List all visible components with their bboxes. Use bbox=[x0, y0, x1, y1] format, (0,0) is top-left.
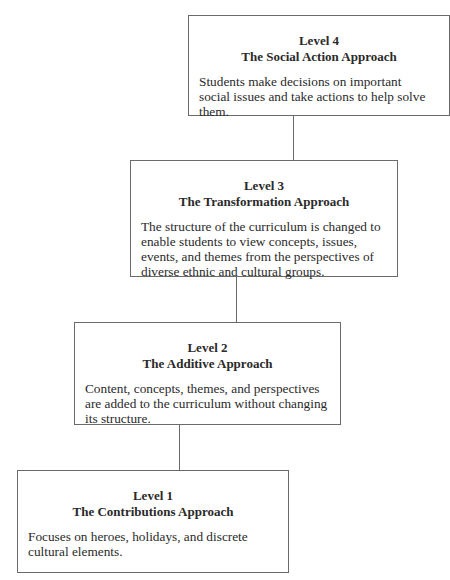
level-2-description: Content, concepts, themes, and perspecti… bbox=[85, 381, 330, 426]
level-3-title: The Transformation Approach bbox=[141, 194, 387, 210]
level-3-number: Level 3 bbox=[141, 178, 387, 194]
level-3-box: Level 3 The Transformation Approach The … bbox=[130, 160, 398, 277]
connector-4-3 bbox=[293, 116, 294, 160]
level-2-title: The Additive Approach bbox=[85, 356, 330, 372]
level-4-title: The Social Action Approach bbox=[199, 49, 439, 65]
level-3-description: The structure of the curriculum is chang… bbox=[141, 219, 387, 279]
level-1-description: Focuses on heroes, holidays, and discret… bbox=[28, 529, 278, 559]
level-1-number: Level 1 bbox=[28, 488, 278, 504]
level-1-title: The Contributions Approach bbox=[28, 504, 278, 520]
connector-3-2 bbox=[236, 277, 237, 322]
level-4-box: Level 4 The Social Action Approach Stude… bbox=[188, 15, 450, 116]
connector-2-1 bbox=[179, 425, 180, 470]
level-2-number: Level 2 bbox=[85, 340, 330, 356]
level-4-number: Level 4 bbox=[199, 33, 439, 49]
level-1-box: Level 1 The Contributions Approach Focus… bbox=[17, 470, 289, 573]
level-2-box: Level 2 The Additive Approach Content, c… bbox=[74, 322, 341, 425]
level-4-description: Students make decisions on important soc… bbox=[199, 74, 431, 119]
